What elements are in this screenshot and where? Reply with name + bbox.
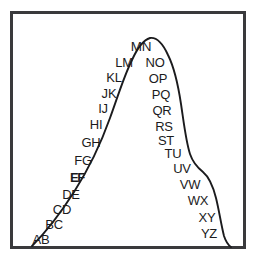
curve-label-jk: JK [102,87,117,100]
curve-label-bc: BC [45,218,63,231]
curve-label-wx: WX [188,194,209,207]
figure-root: AB BC CD DE EF FG GH HI IJ JK KL LM MN N… [0,0,258,262]
curve-label-uv: UV [173,162,191,175]
curve-label-ij: IJ [98,102,108,115]
curve-label-tu: TU [165,147,182,160]
curve-label-ef: EF [70,171,84,184]
curve-label-vw: VW [180,178,201,191]
curve-label-kl: KL [106,71,122,84]
curve-label-pq: PQ [152,88,170,101]
curve-label-yz: YZ [201,227,217,240]
curve-label-qr: QR [152,104,171,117]
curve-label-op: OP [149,72,167,85]
curve-label-fg: FG [74,154,92,167]
curve-label-cd: CD [53,203,71,216]
plot-area: AB BC CD DE EF FG GH HI IJ JK KL LM MN N… [0,0,258,262]
curve-label-rs: RS [155,120,173,133]
curve-label-mn: MN [131,40,152,53]
curve-label-lm: LM [115,56,133,69]
curve-label-hi: HI [90,118,103,131]
curve-label-de: DE [62,188,80,201]
bell-curve-line [0,0,258,262]
curve-label-xy: XY [199,211,216,224]
curve-label-ab: AB [33,233,50,246]
curve-label-gh: GH [81,136,100,149]
curve-label-no: NO [145,56,164,69]
